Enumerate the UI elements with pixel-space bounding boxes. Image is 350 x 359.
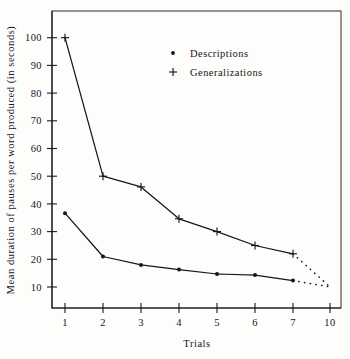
x-axis-tick-labels: 1 2 3 4 5 6 7 10 bbox=[62, 317, 335, 328]
x-tick-label: 10 bbox=[324, 317, 335, 328]
y-tick-label: 10 bbox=[31, 282, 42, 293]
y-axis-tick-labels: 10 20 30 40 50 60 70 80 90 100 bbox=[25, 32, 42, 292]
legend-label-descriptions: Descriptions bbox=[190, 48, 248, 59]
y-axis-title: Mean duration of pauses per word produce… bbox=[5, 26, 17, 295]
x-tick-label: 6 bbox=[252, 317, 258, 328]
y-tick-label: 20 bbox=[31, 254, 42, 265]
chart-figure: 10 20 30 40 50 60 70 80 90 100 1 2 3 bbox=[0, 0, 350, 359]
x-tick-label: 1 bbox=[62, 317, 68, 328]
x-tick-label: 7 bbox=[290, 317, 296, 328]
y-tick-label: 40 bbox=[31, 199, 42, 210]
chart-legend: Descriptions Generalizations bbox=[169, 48, 263, 78]
series-dotted-descriptions bbox=[293, 281, 330, 287]
legend-plus-icon bbox=[169, 68, 177, 76]
legend-label-generalizations: Generalizations bbox=[190, 67, 263, 78]
y-tick-label: 70 bbox=[31, 115, 42, 126]
x-tick-label: 3 bbox=[138, 317, 144, 328]
y-tick-label: 30 bbox=[31, 226, 42, 237]
x-tick-label: 5 bbox=[214, 317, 220, 328]
y-tick-label: 80 bbox=[31, 88, 42, 99]
y-tick-label: 100 bbox=[25, 32, 42, 43]
x-tick-label: 4 bbox=[176, 317, 182, 328]
y-tick-label: 90 bbox=[31, 60, 42, 71]
y-tick-label: 50 bbox=[31, 171, 42, 182]
line-chart: 10 20 30 40 50 60 70 80 90 100 1 2 3 bbox=[0, 0, 350, 359]
legend-dot-icon bbox=[171, 51, 175, 55]
y-tick-label: 60 bbox=[31, 143, 42, 154]
x-tick-label: 2 bbox=[100, 317, 106, 328]
x-axis-title: Trials bbox=[183, 338, 210, 349]
